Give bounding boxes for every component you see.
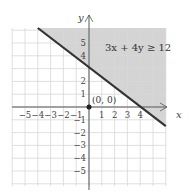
svg-text:−2: −2: [57, 110, 70, 120]
svg-text:−4: −4: [32, 110, 45, 120]
svg-text:2: 2: [112, 110, 117, 120]
inequality-annotation: 3x + 4y ≥ 12: [105, 42, 171, 53]
svg-text:1: 1: [81, 89, 86, 99]
svg-text:5: 5: [81, 38, 86, 48]
svg-text:−5: −5: [19, 110, 32, 120]
svg-text:−1: −1: [73, 115, 86, 125]
svg-text:4: 4: [137, 110, 142, 120]
y-axis-label: y: [77, 12, 84, 23]
svg-text:−3: −3: [73, 140, 86, 150]
svg-text:4: 4: [81, 51, 86, 61]
svg-text:−2: −2: [73, 128, 86, 138]
svg-text:−5: −5: [73, 166, 86, 176]
svg-text:1: 1: [99, 110, 104, 120]
svg-text:−3: −3: [44, 110, 57, 120]
svg-text:−4: −4: [73, 153, 86, 163]
svg-text:3: 3: [125, 110, 130, 120]
svg-text:2: 2: [81, 76, 86, 86]
origin-label: (0, 0): [92, 95, 116, 105]
x-axis-label: x: [176, 109, 182, 120]
origin-point: [87, 105, 92, 110]
graph: −5−4−3−2−112345421−1−2−3−4−5 x y 3x + 4y…: [0, 0, 190, 195]
